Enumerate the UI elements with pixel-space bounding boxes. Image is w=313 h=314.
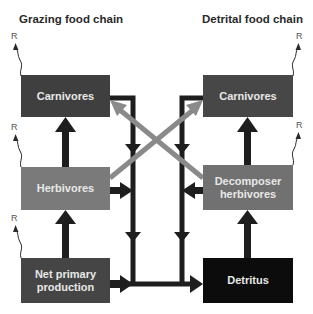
decomposer-label-line2: herbivores (220, 188, 276, 201)
respiration-arrow-detrital-carnivores (292, 43, 301, 76)
arrow-decomposer-to-bar (182, 182, 203, 199)
decomposer-herbivores-box: Decomposer herbivores (203, 165, 293, 210)
respiration-arrow-herbivores (13, 134, 22, 167)
arrow-detritus-to-decomposers (237, 210, 258, 258)
arrow-herbivores-to-carnivores (55, 117, 76, 167)
detrital-carnivores-label: Carnivores (219, 90, 276, 103)
detrital-carnivores-box: Carnivores (203, 75, 293, 117)
npp-label-line1: Net primary (35, 268, 96, 281)
herbivores-label: Herbivores (37, 182, 94, 195)
arrow-decomposers-to-carnivores (237, 117, 258, 165)
down-arrowhead-icon (174, 144, 190, 154)
respiration-label: R (11, 213, 18, 223)
respiration-arrow-npp (13, 225, 22, 258)
decomposer-label-line1: Decomposer (215, 175, 282, 188)
grazing-carnivores-box: Carnivores (21, 75, 110, 117)
detritus-box: Detritus (203, 258, 293, 303)
respiration-label: R (296, 120, 303, 130)
net-primary-production-box: Net primary production (21, 258, 110, 303)
grazing-carnivores-label: Carnivores (37, 90, 94, 103)
respiration-label: R (11, 122, 18, 132)
arrow-herbivores-to-bar (110, 182, 133, 199)
respiration-arrow-grazing-carnivores (13, 43, 22, 76)
respiration-label: R (11, 31, 18, 41)
arrow-npp-to-herbivores (55, 210, 76, 258)
respiration-arrow-decomposer-herbivores (292, 132, 301, 165)
arrow-npp-to-bar (110, 275, 133, 293)
herbivores-box: Herbivores (21, 167, 110, 210)
down-arrowhead-icon (125, 232, 141, 242)
down-arrowhead-icon (174, 232, 190, 242)
respiration-label: R (296, 31, 303, 41)
detritus-label: Detritus (227, 274, 269, 287)
npp-label-line2: production (37, 281, 94, 294)
arrow-bar-to-detritus (190, 275, 203, 293)
